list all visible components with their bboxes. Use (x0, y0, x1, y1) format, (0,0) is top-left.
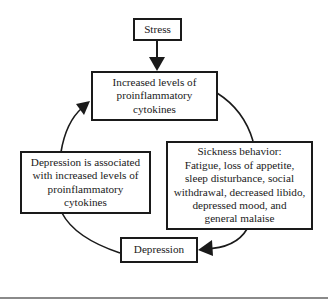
node-sickness-behavior: Sickness behavior: Fatigue, loss of appe… (166, 141, 313, 230)
node-text: Fatigue, loss of appetite, (185, 159, 295, 172)
node-increased-cytokines: Increased levels of proinflammatory cyto… (91, 71, 218, 121)
node-text: proinflammatory (117, 89, 193, 102)
node-text: depressed mood, and (192, 199, 286, 212)
node-text: Increased levels of (113, 76, 197, 89)
node-text: Sickness behavior: (197, 145, 281, 158)
node-text: with increased levels of (33, 169, 139, 182)
edge-association-to-cytokines (61, 108, 82, 152)
node-text: general malaise (205, 212, 275, 225)
bottom-divider (0, 297, 328, 299)
node-text: withdrawal, decreased libido, (174, 186, 306, 199)
node-stress: Stress (133, 18, 182, 41)
node-depression: Depression (120, 237, 198, 263)
node-text: Stress (144, 23, 171, 36)
node-text: proinflammatory (48, 183, 124, 196)
node-text: sleep disturbance, social (185, 172, 294, 185)
edge-cytokines-to-sickness (217, 93, 253, 141)
edge-depression-to-association (62, 213, 120, 253)
node-text: Depression (134, 243, 184, 256)
arrowhead-left-icon (198, 240, 213, 256)
node-text: cytokines (64, 196, 107, 209)
node-text: Depression is associated (31, 156, 140, 169)
arrowhead-down-icon (149, 57, 165, 71)
node-text: cytokines (133, 103, 176, 116)
node-depression-association: Depression is associated with increased … (20, 151, 151, 214)
